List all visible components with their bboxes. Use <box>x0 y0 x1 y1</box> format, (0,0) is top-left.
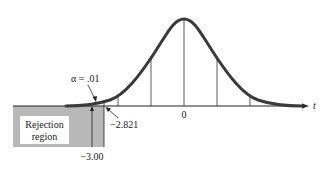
t-distribution-chart: Rejection region t α = .01 −2.821 −3.00 … <box>0 0 324 171</box>
alpha-label: α = .01 <box>71 73 99 84</box>
rejection-region-label-line2: region <box>32 131 58 142</box>
critical-value-label: −2.821 <box>110 119 138 130</box>
critical-arrow-line <box>108 109 118 118</box>
rejection-region-label-line1: Rejection <box>25 119 63 130</box>
zero-tick-label: 0 <box>182 109 187 120</box>
t-axis-label: t <box>313 100 316 111</box>
test-statistic-label: −3.00 <box>80 151 103 162</box>
alpha-arrow-icon <box>93 96 98 102</box>
